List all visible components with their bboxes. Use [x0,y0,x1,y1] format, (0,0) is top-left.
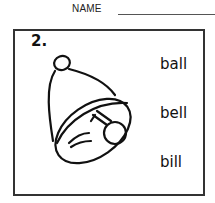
name-label: NAME [72,3,102,14]
choice-bell[interactable]: bell [160,104,187,122]
choice-ball[interactable]: ball [160,55,187,73]
question-box: 2. ball bell bill [13,29,205,196]
bell-icon [35,51,145,176]
name-blank-line[interactable] [118,14,215,15]
question-number: 2. [31,32,47,50]
choice-bill[interactable]: bill [160,153,182,171]
